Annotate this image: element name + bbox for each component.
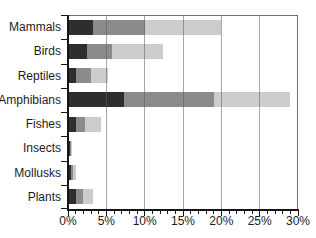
- y-category-label-reptiles: Reptiles: [18, 69, 61, 83]
- x-axis-tick-labels: 0%5%10%15%20%25%30%: [68, 215, 298, 229]
- x-axis-minor-tick: [206, 211, 207, 214]
- y-axis-tick: [61, 185, 67, 186]
- x-axis-minor-tick: [91, 211, 92, 214]
- threatened-species-stacked-bar-chart: MammalsBirdsReptilesAmphibiansFishesInse…: [0, 0, 316, 238]
- y-category-label-plants: Plants: [28, 190, 61, 204]
- y-category-label-amphibians: Amphibians: [0, 93, 61, 107]
- plot-area: [68, 15, 298, 209]
- y-axis-tick: [61, 161, 67, 162]
- x-axis-minor-tick: [275, 211, 276, 214]
- x-axis-minor-tick: [198, 211, 199, 214]
- x-axis-minor-tick: [236, 211, 237, 214]
- x-axis-minor-tick: [167, 211, 168, 214]
- x-axis-minor-tick: [83, 211, 84, 214]
- x-tick-label-15pct: 15%: [171, 215, 195, 228]
- y-category-label-fishes: Fishes: [26, 117, 61, 131]
- x-axis-minor-tick: [160, 211, 161, 214]
- x-tick-label-25pct: 25%: [248, 215, 272, 228]
- y-category-label-insects: Insects: [23, 141, 61, 155]
- y-axis-tick: [61, 64, 67, 65]
- x-tick-label-0pct: 0%: [59, 215, 76, 228]
- y-axis-tick: [61, 88, 67, 89]
- y-axis-tick: [61, 208, 67, 209]
- y-category-label-mammals: Mammals: [9, 20, 61, 34]
- axis-ticks-layer: [68, 15, 298, 209]
- x-axis-minor-tick: [244, 211, 245, 214]
- y-category-label-birds: Birds: [34, 44, 61, 58]
- y-axis-tick: [61, 39, 67, 40]
- x-tick-label-10pct: 10%: [133, 215, 157, 228]
- y-axis-tick: [61, 15, 67, 16]
- x-tick-label-20pct: 20%: [209, 215, 233, 228]
- x-axis-minor-tick: [121, 211, 122, 214]
- x-axis-minor-tick: [129, 211, 130, 214]
- y-axis-category-labels: MammalsBirdsReptilesAmphibiansFishesInse…: [0, 15, 64, 209]
- x-tick-label-5pct: 5%: [98, 215, 115, 228]
- y-category-label-mollusks: Mollusks: [14, 166, 61, 180]
- x-tick-label-30pct: 30%: [286, 215, 310, 228]
- y-axis-tick: [61, 112, 67, 113]
- x-axis-minor-tick: [282, 211, 283, 214]
- y-axis-tick: [61, 136, 67, 137]
